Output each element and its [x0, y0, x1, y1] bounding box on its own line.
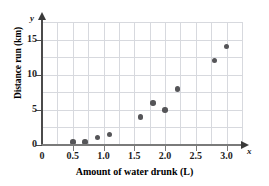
data-point [95, 135, 101, 141]
gridline-horizontal [42, 92, 242, 93]
y-axis-tick-label: 0 [13, 138, 37, 149]
y-axis-arrow-icon [38, 12, 46, 20]
data-point [107, 132, 113, 138]
x-axis-tick-label: 1.0 [89, 150, 119, 161]
y-axis-tick-label: 5 [13, 103, 37, 114]
x-axis-tick-label: 0 [27, 150, 57, 161]
gridline-horizontal [42, 127, 242, 128]
y-axis-tick-label: 15 [13, 33, 37, 44]
y-axis-tick-label: 10 [13, 68, 37, 79]
x-axis-title: Amount of water drunk (L) [0, 166, 269, 177]
gridline-horizontal [42, 75, 242, 76]
data-point [150, 100, 156, 106]
x-axis-line [41, 144, 243, 146]
data-point [212, 58, 218, 64]
y-axis-variable-label: y [30, 13, 34, 23]
gridline-horizontal [42, 22, 242, 23]
x-axis-tick-label: 3.0 [212, 150, 242, 161]
data-point [224, 44, 230, 50]
scatter-plot-figure: y x Distance run (km) Amount of water dr… [0, 0, 269, 186]
data-point [162, 107, 168, 113]
x-axis-tick-label: 0.5 [58, 150, 88, 161]
x-axis-variable-label: x [247, 146, 252, 156]
gridline-vertical [242, 22, 243, 145]
gridline-horizontal [42, 40, 242, 41]
x-axis-tick-label: 2.5 [181, 150, 211, 161]
plot-area [42, 22, 242, 145]
data-point [138, 114, 144, 120]
data-point [175, 86, 181, 92]
x-axis-tick-label: 2.0 [150, 150, 180, 161]
gridline-horizontal [42, 110, 242, 111]
y-axis-line [41, 18, 43, 146]
x-axis-tick-label: 1.5 [119, 150, 149, 161]
